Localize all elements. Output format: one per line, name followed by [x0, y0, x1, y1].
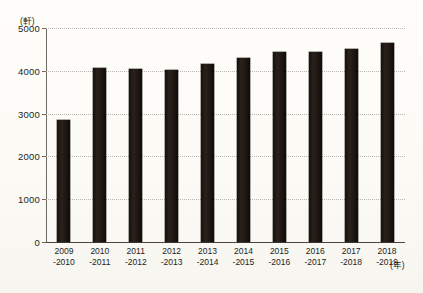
x-axis-tick-labels: 2009-20102010-20112011-20122012-20132013… — [46, 246, 405, 284]
y-tick-5000 — [42, 28, 46, 29]
y-tick-label-2000: 2000 — [18, 151, 40, 162]
x-tick-label-line2: -2014 — [197, 257, 219, 268]
plot-area — [46, 28, 405, 242]
bar-2016 — [309, 52, 322, 242]
x-tick-label-2011: 2011-2012 — [125, 246, 147, 268]
x-tick-label-2012: 2012-2013 — [161, 246, 183, 268]
bar-2013 — [201, 64, 214, 242]
y-tick-label-5000: 5000 — [18, 23, 40, 34]
x-tick-label-2010: 2010-2011 — [89, 246, 110, 268]
x-tick-label-line1: 2010 — [90, 246, 109, 256]
y-tick-label-0: 0 — [35, 237, 40, 248]
bar-2015 — [273, 52, 286, 242]
y-axis-line — [46, 28, 47, 242]
bar-2009 — [57, 120, 70, 242]
x-tick-label-2013: 2013-2014 — [197, 246, 219, 268]
x-tick-label-line2: -2012 — [125, 257, 147, 268]
x-tick-label-line1: 2014 — [234, 246, 253, 256]
x-tick-label-2016: 2016-2017 — [304, 246, 326, 268]
x-tick-label-2015: 2015-2016 — [268, 246, 290, 268]
bar-2014 — [237, 58, 250, 242]
x-tick-label-line2: -2010 — [53, 257, 75, 268]
x-tick-label-line1: 2013 — [198, 246, 217, 256]
x-tick-label-2014: 2014-2015 — [233, 246, 255, 268]
y-tick-label-3000: 3000 — [18, 108, 40, 119]
x-tick-label-line1: 2015 — [270, 246, 289, 256]
x-tick-label-line1: 2009 — [54, 246, 73, 256]
y-tick-4000 — [42, 71, 46, 72]
x-tick-label-line2: -2015 — [233, 257, 255, 268]
y-axis-tick-labels: 010002000300040005000 — [0, 28, 44, 242]
y-tick-0 — [42, 242, 46, 243]
x-tick-label-line2: -2013 — [161, 257, 183, 268]
x-tick-label-line2: -2018 — [340, 257, 362, 268]
x-tick-label-line2: -2017 — [304, 257, 326, 268]
x-axis-unit-label: (年) — [390, 258, 405, 270]
bar-2010 — [93, 68, 106, 242]
x-tick-label-line1: 2016 — [306, 246, 325, 256]
bar-chart: (軒) 010002000300040005000 2009-20102010-… — [0, 0, 423, 293]
x-tick-label-line1: 2018 — [378, 246, 397, 256]
bar-2011 — [129, 69, 142, 242]
y-tick-3000 — [42, 114, 46, 115]
x-tick-label-line1: 2017 — [342, 246, 361, 256]
bar-2012 — [165, 70, 178, 242]
bar-2017 — [345, 49, 358, 242]
bar-2018 — [381, 43, 394, 242]
y-tick-2000 — [42, 156, 46, 157]
x-tick-label-line2: -2011 — [89, 257, 110, 268]
x-tick-label-line1: 2012 — [162, 246, 181, 256]
axis-baseline — [46, 242, 405, 243]
x-tick-label-2009: 2009-2010 — [53, 246, 75, 268]
y-tick-label-4000: 4000 — [18, 65, 40, 76]
x-tick-label-line2: -2016 — [268, 257, 290, 268]
y-tick-label-1000: 1000 — [18, 194, 40, 205]
x-tick-label-2017: 2017-2018 — [340, 246, 362, 268]
gridline-5000 — [46, 28, 405, 29]
x-tick-label-line1: 2011 — [127, 246, 145, 256]
y-tick-1000 — [42, 199, 46, 200]
